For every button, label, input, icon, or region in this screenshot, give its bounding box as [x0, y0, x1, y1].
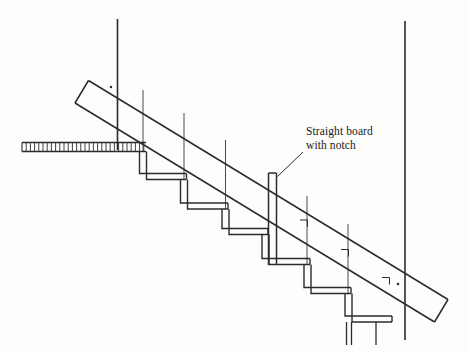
stair-diagram: Straight board with notch: [0, 0, 467, 352]
annotation-leader-line: [278, 152, 304, 177]
riser-extension-lines: [143, 90, 348, 294]
annotation-line-2: with notch: [306, 139, 373, 153]
annotation-straight-board-with-notch: Straight board with notch: [306, 125, 373, 152]
stair-bottom-stub: [347, 322, 377, 345]
stair-line-drawing: [0, 0, 467, 352]
notch-tick-marks: [300, 220, 390, 285]
stair-step-profile: [140, 152, 393, 323]
board-knot-marks: [110, 86, 400, 286]
straight-board: [75, 81, 448, 323]
floor-hatched-band: [22, 143, 146, 152]
annotation-line-1: Straight board: [306, 125, 373, 139]
